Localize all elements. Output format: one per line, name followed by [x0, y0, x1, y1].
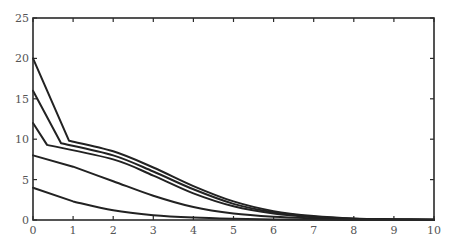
data-series — [33, 58, 434, 220]
x-tick-label: 7 — [310, 224, 317, 237]
x-tick-label: 10 — [427, 224, 441, 237]
y-tick-label: 20 — [15, 52, 29, 65]
x-tick-label: 2 — [110, 224, 117, 237]
x-tick-label: 3 — [150, 224, 157, 237]
x-tick-label: 5 — [230, 224, 237, 237]
line-chart: 0123456789100510152025 — [0, 0, 456, 242]
x-tick-label: 9 — [390, 224, 397, 237]
y-tick-label: 5 — [22, 174, 29, 187]
x-tick-label: 0 — [30, 224, 37, 237]
x-tick-label: 4 — [190, 224, 197, 237]
y-tick-label: 25 — [15, 12, 29, 25]
y-tick-label: 15 — [15, 93, 29, 106]
y-tick-label: 0 — [22, 214, 29, 227]
x-tick-label: 8 — [350, 224, 357, 237]
axis-ticks — [33, 18, 434, 220]
series-line-curve-8 — [33, 155, 434, 220]
series-line-curve-20 — [33, 58, 434, 219]
x-tick-label: 6 — [270, 224, 277, 237]
y-tick-label: 10 — [15, 133, 29, 146]
x-tick-label: 1 — [70, 224, 77, 237]
plot-frame — [33, 18, 434, 220]
